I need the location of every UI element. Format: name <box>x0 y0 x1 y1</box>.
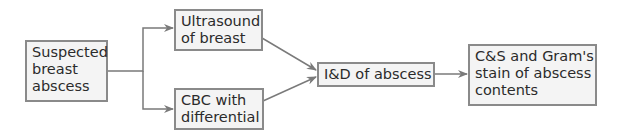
edge-suspected-to-cbc <box>143 71 173 109</box>
edge-suspected-to-ultrasound <box>107 28 173 71</box>
node-cbc-with-differential: CBC with differential <box>174 88 264 130</box>
edge-cbc-to-id <box>263 77 316 101</box>
edge-ultrasound-to-id <box>262 38 316 70</box>
node-cs-and-grams-stain: C&S and Gram's stain of abscess contents <box>468 44 597 106</box>
node-ultrasound-of-breast: Ultrasound of breast <box>174 9 263 51</box>
node-i-and-d-of-abscess: I&D of abscess <box>317 62 435 87</box>
node-suspected-breast-abscess: Suspected breast abscess <box>25 40 108 102</box>
